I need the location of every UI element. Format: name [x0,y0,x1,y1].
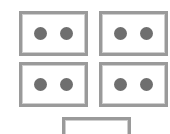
dot [140,78,153,91]
dot [60,27,73,40]
dot [34,27,47,40]
dot-cards-canvas [0,0,170,134]
dot [34,78,47,91]
dot [114,27,127,40]
dot-card-top-left [19,11,88,56]
dot [114,78,127,91]
dot [60,78,73,91]
dot-card-top-right [99,11,168,56]
dot-card-bottom-left [19,62,88,107]
dot [140,27,153,40]
dot-card-center-bottom [62,117,131,134]
dot-card-bottom-right [99,62,168,107]
